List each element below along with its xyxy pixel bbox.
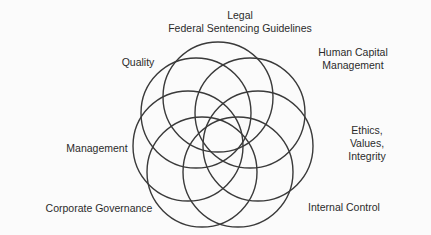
- label-ethics: Ethics, Values, Integrity: [342, 124, 392, 163]
- label-legal: Legal Federal Sentencing Guidelines: [150, 9, 330, 35]
- label-internal-control: Internal Control: [304, 201, 384, 214]
- label-internal-control-line1: Internal Control: [304, 201, 384, 214]
- circle-corporate-governance: [147, 117, 257, 227]
- circle-ethics: [203, 91, 313, 201]
- label-legal-line1: Legal: [150, 9, 330, 22]
- circles-graphic: [0, 0, 431, 235]
- circle-quality: [141, 58, 251, 168]
- label-corporate-governance-line1: Corporate Governance: [44, 202, 154, 215]
- label-quality-line1: Quality: [118, 56, 158, 69]
- label-human-capital-line2: Management: [308, 59, 398, 72]
- label-legal-line2: Federal Sentencing Guidelines: [150, 22, 330, 35]
- circle-internal-control: [183, 117, 293, 227]
- label-human-capital: Human Capital Management: [308, 46, 398, 72]
- label-quality: Quality: [118, 56, 158, 69]
- label-ethics-line1: Ethics,: [342, 124, 392, 137]
- label-corporate-governance: Corporate Governance: [44, 202, 154, 215]
- diagram-canvas: Legal Federal Sentencing Guidelines Qual…: [0, 0, 431, 235]
- label-human-capital-line1: Human Capital: [308, 46, 398, 59]
- label-management-line1: Management: [62, 142, 132, 155]
- label-ethics-line3: Integrity: [342, 150, 392, 163]
- circle-management: [133, 91, 243, 201]
- label-ethics-line2: Values,: [342, 137, 392, 150]
- label-management: Management: [62, 142, 132, 155]
